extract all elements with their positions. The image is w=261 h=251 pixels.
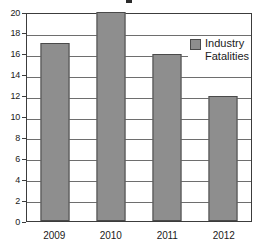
x-label-2012: 2012 (196, 224, 253, 248)
bar-2009[interactable] (41, 43, 70, 221)
bar-2010[interactable] (97, 12, 126, 221)
y-tick-label: 10 (10, 113, 22, 122)
y-tick-label: 20 (10, 9, 22, 18)
x-label-2009: 2009 (26, 224, 83, 248)
legend-label-industry-fatalities: Industry Fatalities (205, 37, 249, 62)
y-axis: 20 18 16 14 12 10 8 6 4 2 0 (0, 13, 26, 222)
y-tick-label: 2 (15, 197, 22, 206)
y-tick-label: 16 (10, 50, 22, 59)
legend-label-line1: Industry (205, 37, 244, 49)
bar-slot-2009 (27, 14, 83, 221)
bar-slot-2011 (139, 14, 195, 221)
y-tick-label: 4 (15, 176, 22, 185)
x-label-2010: 2010 (83, 224, 140, 248)
legend-label-line2: Fatalities (205, 50, 249, 62)
cropped-title-sliver (126, 0, 132, 3)
x-label-2011: 2011 (139, 224, 196, 248)
y-tick-label: 6 (15, 155, 22, 164)
x-axis: 2009 2010 2011 2012 (26, 224, 252, 248)
bar-slot-2010 (83, 14, 139, 221)
y-tick-label: 0 (15, 218, 22, 227)
legend-swatch-industry-fatalities (190, 39, 201, 50)
bar-chart: 20 18 16 14 12 10 8 6 4 2 0 (0, 0, 261, 251)
y-tick-label: 18 (10, 29, 22, 38)
bar-2012[interactable] (209, 96, 238, 221)
y-tick-label: 12 (10, 92, 22, 101)
legend[interactable]: Industry Fatalities (188, 36, 251, 64)
y-tick-label: 14 (10, 71, 22, 80)
bar-2011[interactable] (153, 54, 182, 221)
y-tick-label: 8 (15, 134, 22, 143)
